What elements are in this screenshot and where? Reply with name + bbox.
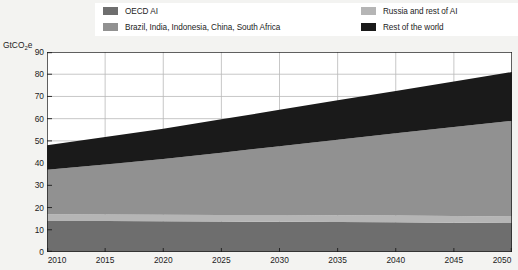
chart-legend: OECD AI Brazil, India, Indonesia, China,… — [95, 3, 518, 36]
y-tick-label-70: 70 — [4, 92, 44, 100]
legend-swatch-brics — [103, 23, 118, 31]
x-tick-label-2010: 2010 — [48, 256, 67, 265]
legend-label-russia-rest-ai: Russia and rest of AI — [383, 7, 458, 16]
y-axis-tick-labels: 9080706050403020100 — [0, 52, 44, 252]
x-tick-label-2015: 2015 — [96, 256, 115, 265]
x-tick-label-2025: 2025 — [212, 256, 231, 265]
x-axis-tick-labels: 201020152020202520302035204020452050 — [47, 256, 512, 268]
legend-label-oecd-ai: OECD AI — [125, 7, 158, 16]
x-tick-label-2035: 2035 — [328, 256, 347, 265]
legend-item-rest-of-world[interactable]: Rest of the world — [353, 19, 518, 35]
y-tick-label-30: 30 — [4, 181, 44, 189]
area-series-oecd-ai — [47, 221, 512, 252]
y-tick-label-20: 20 — [4, 204, 44, 212]
legend-item-russia-rest-ai[interactable]: Russia and rest of AI — [353, 3, 518, 19]
x-tick-label-2020: 2020 — [154, 256, 173, 265]
chart-figure: OECD AI Brazil, India, Indonesia, China,… — [0, 0, 518, 270]
x-tick-label-2040: 2040 — [386, 256, 405, 265]
y-tick-label-10: 10 — [4, 226, 44, 234]
legend-swatch-oecd-ai — [103, 7, 118, 15]
x-tick-label-2030: 2030 — [270, 256, 289, 265]
legend-label-rest-of-world: Rest of the world — [383, 23, 444, 32]
x-tick-label-2050: 2050 — [493, 256, 512, 265]
y-tick-label-60: 60 — [4, 115, 44, 123]
x-tick-label-2045: 2045 — [445, 256, 464, 265]
y-tick-label-50: 50 — [4, 137, 44, 145]
legend-swatch-russia-rest-ai — [361, 7, 376, 15]
y-tick-label-80: 80 — [4, 70, 44, 78]
legend-item-oecd-ai[interactable]: OECD AI — [95, 3, 353, 19]
y-tick-label-40: 40 — [4, 159, 44, 167]
legend-label-brics: Brazil, India, Indonesia, China, South A… — [125, 23, 280, 32]
y-tick-label-0: 0 — [4, 248, 44, 256]
y-tick-label-90: 90 — [4, 48, 44, 56]
stacked-area-chart-svg — [47, 52, 512, 252]
legend-swatch-rest-of-world — [361, 23, 376, 31]
legend-item-brics[interactable]: Brazil, India, Indonesia, China, South A… — [95, 19, 353, 35]
plot-area — [47, 52, 512, 252]
